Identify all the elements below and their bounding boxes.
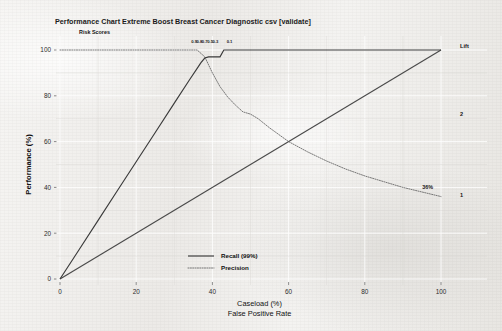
x-tick-label: 100 xyxy=(436,288,447,295)
x-tick-label: 60 xyxy=(285,288,293,295)
y-tick-label: 60 xyxy=(44,138,52,145)
legend: Recall (99%)Precision xyxy=(188,252,257,271)
y-axis: 020406080100 xyxy=(40,46,56,282)
lift-axis-tick: 1 xyxy=(460,192,463,198)
threshold-label: 0.1 xyxy=(227,39,233,44)
lift-axis-title: Lift xyxy=(460,43,469,49)
lift-axis-tick: 2 xyxy=(460,111,463,117)
chart-canvas: Performance Chart Extreme Boost Breast C… xyxy=(0,0,502,331)
chart-title: Performance Chart Extreme Boost Breast C… xyxy=(55,17,311,26)
x-tick-label: 0 xyxy=(58,288,62,295)
y-tick-label: 100 xyxy=(40,46,51,53)
performance-chart: Performance Chart Extreme Boost Breast C… xyxy=(0,0,502,331)
precision-endpoint-label: 36% xyxy=(422,184,433,190)
y-tick-label: 20 xyxy=(44,230,52,237)
threshold-label: 0.3 xyxy=(213,39,219,44)
x-tick-label: 80 xyxy=(361,288,369,295)
x-axis-label: Caseload (%) xyxy=(237,299,282,308)
y-tick-label: 40 xyxy=(44,184,52,191)
gridlines xyxy=(56,36,487,285)
x-tick-label: 20 xyxy=(133,288,141,295)
y-tick-label: 0 xyxy=(47,275,51,282)
x-tick-label: 40 xyxy=(209,288,217,295)
x-axis: 020406080100 xyxy=(58,282,447,295)
y-tick-label: 80 xyxy=(44,92,52,99)
legend-label: Precision xyxy=(221,264,249,271)
annotations: Risk Scores0.90.80.70.50.30.136%Lift21 xyxy=(79,29,469,198)
risk-scores-caption: Risk Scores xyxy=(79,29,110,35)
legend-label: Recall (99%) xyxy=(221,252,257,259)
x-axis-label-secondary: False Positive Rate xyxy=(228,309,292,318)
y-axis-label: Performance (%) xyxy=(24,134,33,195)
